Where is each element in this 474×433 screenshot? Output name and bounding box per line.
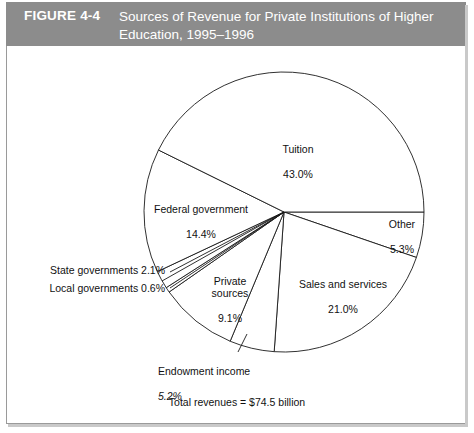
slice-label-state-governments: State governments 2.1% (20, 264, 165, 277)
slice-label-federal-government: Federal government 14.4% (142, 190, 260, 253)
slice-label-private-sources-name: Private sources (198, 275, 262, 300)
slice-label-sales-and-services-pct: 21.0% (288, 303, 398, 316)
slice-label-private-sources: Private sources 9.1% (198, 262, 262, 337)
slice-label-sales-and-services-name: Sales and services (288, 278, 398, 291)
slice-label-federal-government-name: Federal government (142, 203, 260, 216)
total-revenues-caption: Total revenues = $74.5 billion (0, 396, 474, 408)
slice-label-endowment-income-name: Endowment income (158, 365, 298, 378)
slice-label-other: Other 5.3% (375, 205, 429, 268)
slice-label-tuition-name: Tuition (258, 143, 338, 156)
slice-label-tuition: Tuition 43.0% (258, 130, 338, 193)
slice-label-sales-and-services: Sales and services 21.0% (288, 265, 398, 328)
slice-label-private-sources-pct: 9.1% (198, 312, 262, 325)
slice-label-other-pct: 5.3% (375, 243, 429, 256)
slice-label-federal-government-pct: 14.4% (142, 228, 260, 241)
slice-label-tuition-pct: 43.0% (258, 168, 338, 181)
slice-label-local-governments: Local governments 0.6% (20, 282, 165, 295)
slice-label-other-name: Other (375, 218, 429, 231)
figure-container: FIGURE 4-4 Sources of Revenue for Privat… (0, 0, 474, 433)
